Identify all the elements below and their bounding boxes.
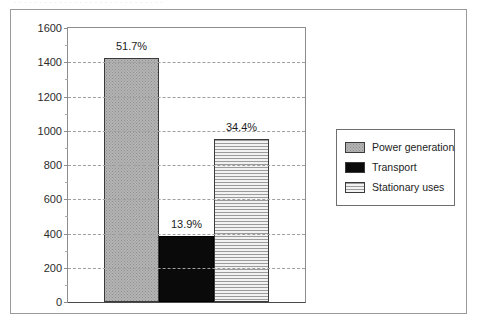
y-axis-minor-tick <box>65 79 68 80</box>
legend-item-label: Stationary uses <box>372 182 444 193</box>
legend-item-label: Power generation <box>372 142 454 153</box>
y-axis-tick-mark <box>64 28 68 29</box>
y-axis-minor-tick <box>65 114 68 115</box>
legend-swatch-icon <box>345 142 365 153</box>
y-axis-tick-label: 200 <box>44 262 62 274</box>
y-axis-minor-tick <box>65 45 68 46</box>
legend-item: Transport <box>345 158 447 177</box>
legend-swatch-icon <box>345 182 365 193</box>
y-axis-tick-mark <box>64 131 68 132</box>
y-axis-minor-tick <box>65 216 68 217</box>
plot-area: 02004006008001000120014001600 51.7%13.9%… <box>67 27 306 303</box>
bar-power-generation <box>104 58 159 302</box>
y-axis-tick-label: 0 <box>56 296 62 308</box>
legend-item: Power generation <box>345 138 447 157</box>
y-axis-tick-mark <box>64 302 68 303</box>
y-axis-tick-mark <box>64 165 68 166</box>
y-axis-tick-mark <box>64 97 68 98</box>
bar-value-label: 51.7% <box>116 40 147 52</box>
chart-legend: Power generationTransportStationary uses <box>336 129 455 206</box>
y-axis-tick-mark <box>64 234 68 235</box>
y-axis-tick-label: 1000 <box>38 125 62 137</box>
bar-stationary-uses <box>214 139 269 302</box>
y-axis-tick-label: 400 <box>44 228 62 240</box>
y-axis-minor-tick <box>65 251 68 252</box>
y-axis-tick-label: 600 <box>44 193 62 205</box>
figure-frame: 02004006008001000120014001600 51.7%13.9%… <box>10 9 467 314</box>
y-axis-minor-tick <box>65 182 68 183</box>
legend-swatch-icon <box>345 162 365 173</box>
y-axis-tick-mark <box>64 199 68 200</box>
bar-transport <box>159 236 214 302</box>
y-axis-tick-label: 800 <box>44 159 62 171</box>
y-axis-tick-label: 1400 <box>38 56 62 68</box>
y-axis-tick-label: 1600 <box>38 22 62 34</box>
page-bleed-text: . . . . . . . . . . . . . . . . . . . . … <box>14 0 464 5</box>
legend-item-label: Transport <box>372 162 417 173</box>
y-axis-tick-label: 1200 <box>38 91 62 103</box>
bar-value-label: 34.4% <box>226 121 257 133</box>
bar-value-label: 13.9% <box>171 218 202 230</box>
y-axis-tick-mark <box>64 268 68 269</box>
legend-item: Stationary uses <box>345 178 447 197</box>
y-axis-minor-tick <box>65 148 68 149</box>
y-axis-minor-tick <box>65 285 68 286</box>
y-axis-tick-mark <box>64 62 68 63</box>
